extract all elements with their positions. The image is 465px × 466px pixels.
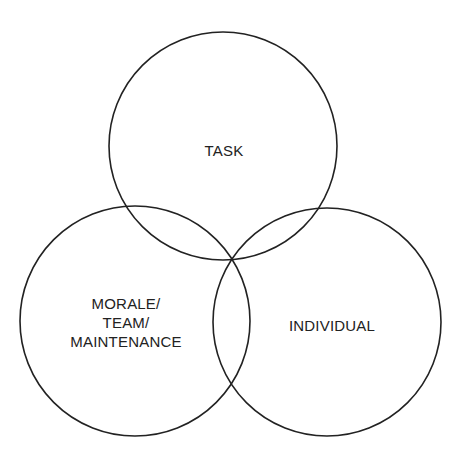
team-label: MORALE/ TEAM/ MAINTENANCE bbox=[70, 294, 181, 351]
team-label-line-3: MAINTENANCE bbox=[70, 332, 181, 351]
individual-label: INDIVIDUAL bbox=[289, 316, 375, 335]
team-label-line-1: MORALE/ bbox=[70, 294, 181, 313]
task-label: TASK bbox=[205, 141, 244, 160]
team-label-line-2: TEAM/ bbox=[70, 313, 181, 332]
venn-diagram bbox=[0, 0, 465, 466]
